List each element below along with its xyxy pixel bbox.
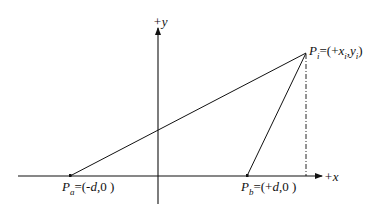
geometry-svg: [0, 0, 378, 218]
point-pa-label: Pa=(-d,0 ): [62, 180, 114, 197]
point-pi-label: Pi=(+xi,yi): [309, 44, 363, 61]
segment-pa-pi: [70, 53, 306, 176]
x-axis-label: +x: [324, 170, 339, 183]
point-pb-label: Pb=(+d,0 ): [241, 180, 296, 197]
point-pb-marker: [246, 174, 249, 177]
diagram-canvas: +y +x Pa=(-d,0 ) Pb=(+d,0 ) Pi=(+xi,yi): [0, 0, 378, 218]
y-axis-label: +y: [153, 15, 168, 28]
point-pa-marker: [69, 174, 72, 177]
segment-pb-pi: [247, 53, 306, 176]
